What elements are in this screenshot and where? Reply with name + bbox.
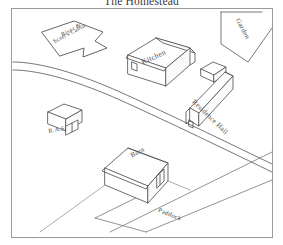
cabin-callout bbox=[42, 21, 107, 57]
site-map-drawing bbox=[0, 0, 283, 245]
ras-building bbox=[48, 104, 82, 135]
kitchen-building bbox=[126, 38, 195, 86]
site-map-page: The Homestead bbox=[0, 0, 283, 245]
garden-area bbox=[221, 12, 272, 62]
residence-hall-building bbox=[186, 62, 233, 128]
barn-building bbox=[102, 148, 168, 203]
